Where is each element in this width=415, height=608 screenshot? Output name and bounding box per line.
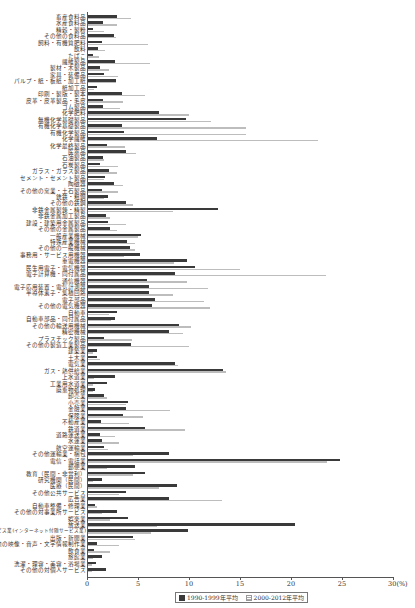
category-label: 洗濯・理容・美容・浴場業 (14, 561, 86, 567)
category-label: 教育（民間・非営利） (26, 471, 86, 477)
category-label: 精穀・製粉 (56, 27, 86, 33)
bar-2000-2012 (87, 371, 226, 372)
category-label: 建築業 (68, 348, 86, 354)
bar-2000-2012 (87, 526, 157, 527)
bar-2000-2012 (87, 442, 119, 443)
category-label: 化学繊維 (62, 136, 86, 142)
category-label: 非鉄金属加工製品 (38, 213, 86, 219)
category-label: その他の映像・音声・文字情報制作業 (0, 541, 86, 547)
category-label: 水運業 (68, 438, 86, 444)
bar-2000-2012 (87, 256, 124, 257)
category-label: 建設・建築用金属製品 (26, 220, 86, 226)
bar-2000-2012 (87, 519, 110, 520)
category-label: 飲料 (74, 46, 86, 52)
bar-2000-2012 (87, 545, 119, 546)
bar-2000-2012 (87, 551, 110, 552)
category-label: 民生用電子・電気機器 (26, 265, 86, 271)
category-label: 石炭製品 (62, 162, 86, 168)
category-label: その他運輸業・梱包 (32, 451, 86, 457)
bar-2000-2012 (87, 172, 117, 173)
category-label: 飲食業 (68, 548, 86, 554)
bar-2000-2012 (87, 416, 143, 417)
category-label: その他の対事業所サービス (14, 509, 86, 515)
bar-2000-2012 (87, 24, 117, 25)
category-label: 旅館業 (68, 554, 86, 560)
bar-2000-2012 (87, 31, 104, 32)
bar-2000-2012 (87, 320, 111, 321)
bar-2000-2012 (87, 294, 173, 295)
bar-2000-2012 (87, 108, 120, 109)
category-label: セメント・セメント製品 (20, 175, 86, 181)
bar-2000-2012 (87, 423, 129, 424)
category-label: 郵便業 (68, 464, 86, 470)
x-tick-label: 5 (136, 580, 140, 588)
bar-2000-2012 (87, 63, 150, 64)
bar-2000-2012 (87, 95, 145, 96)
category-label: ガラス・ガラス製品 (32, 168, 86, 174)
bar-2000-2012 (87, 18, 131, 19)
bar-2000-2012 (87, 461, 327, 462)
bar-2000-2012 (87, 159, 104, 160)
bar-2000-2012 (87, 378, 94, 379)
category-label: 化学肥料 (62, 110, 86, 116)
bar-2000-2012 (87, 121, 211, 122)
bar-2000-2012 (87, 236, 138, 237)
bar-2000-2012 (87, 455, 133, 456)
legend-swatch-dark (179, 595, 185, 601)
category-label: その他の電気機器 (38, 303, 86, 309)
category-label: 自動車整備・修理業 (32, 503, 86, 509)
category-label: 卸売業 (68, 393, 86, 399)
category-label: 上水道業 (62, 374, 86, 380)
bar-2000-2012 (87, 436, 115, 437)
category-label: 無機化学基礎製品 (38, 117, 86, 123)
category-label: 通信機器 (62, 278, 86, 284)
category-label: 小売業 (68, 400, 86, 406)
bar-2000-2012 (87, 397, 107, 398)
category-label: 電気業 (68, 361, 86, 367)
category-label: 電子部品 (62, 297, 86, 303)
bar-2000-2012 (87, 191, 118, 192)
category-label: 非鉄金属製錬・精製 (32, 207, 86, 213)
bar-2000-2012 (87, 204, 133, 205)
category-label: 陶磁器 (68, 181, 86, 187)
category-label: 精密機械 (62, 329, 86, 335)
bar-2000-2012 (87, 198, 104, 199)
x-tick-label: 30(%) (388, 580, 408, 588)
x-tick-label: 0 (85, 580, 89, 588)
bar-2000-2012 (87, 468, 107, 469)
category-label: その他の輸送用機械 (32, 323, 86, 329)
bar-2000-2012 (87, 539, 135, 540)
bar-2000-2012 (87, 262, 174, 263)
bar-2000-2012 (87, 314, 109, 315)
bar-2000-2012 (87, 140, 318, 141)
bar-2000-2012 (87, 288, 208, 289)
category-label: 金融業 (68, 406, 86, 412)
bar-2000-2012 (87, 146, 125, 147)
category-label: 紙加工品 (62, 85, 86, 91)
category-label: 医療（民間） (50, 483, 86, 489)
category-label: 有機化学製品 (50, 130, 86, 136)
category-label: ガス・熱供給業 (44, 368, 86, 374)
category-label: 広告業 (68, 496, 86, 502)
bar-2000-2012 (87, 134, 246, 135)
bar-2000-2012 (87, 429, 185, 430)
bar-2000-2012 (87, 487, 159, 488)
category-label: その他の鉄鋼 (50, 200, 86, 206)
bar-2000-2012 (87, 281, 187, 282)
category-label: 工業用水道業 (50, 381, 86, 387)
category-label: 製材・木製品 (50, 65, 86, 71)
bar-2000-2012 (87, 346, 189, 347)
bar-2000-2012 (87, 89, 94, 90)
category-label: たばこ (68, 53, 86, 59)
bar-2000-2012 (87, 56, 99, 57)
bar-2000-2012 (87, 365, 178, 366)
bar-2000-2012 (87, 359, 100, 360)
category-label: 水産食料品 (56, 20, 86, 26)
category-label: 土木業 (68, 355, 86, 361)
bar-2000-2012 (87, 211, 173, 212)
bar-2000-2012 (87, 82, 116, 83)
category-label: 印刷・製版・製本 (38, 91, 86, 97)
horizontal-bar-chart: 畜産食料品水産食料品精穀・製粉その他の食料品飼料・有機質肥料飲料たばこ繊維製品製… (0, 0, 415, 608)
bar-2000-2012 (87, 153, 136, 154)
legend-item-1990-1999: 1990-1999年平均 (179, 593, 238, 602)
